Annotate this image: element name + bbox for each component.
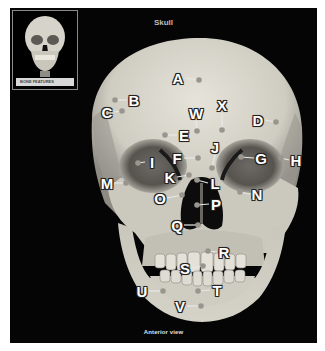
label-i[interactable]: I: [150, 155, 154, 170]
pin-s[interactable]: [200, 263, 206, 269]
pin-n[interactable]: [237, 189, 243, 195]
label-u[interactable]: U: [137, 284, 148, 299]
label-x[interactable]: X: [217, 98, 227, 113]
pin-e[interactable]: [162, 132, 168, 138]
label-h[interactable]: H: [291, 153, 302, 168]
label-n[interactable]: N: [252, 187, 263, 202]
label-v[interactable]: V: [175, 299, 185, 314]
pin-u[interactable]: [160, 288, 166, 294]
pin-r[interactable]: [205, 248, 211, 254]
label-p[interactable]: P: [211, 197, 221, 212]
pin-p[interactable]: [194, 202, 200, 208]
pin-g[interactable]: [238, 154, 244, 160]
label-k[interactable]: K: [165, 170, 176, 185]
pin-c[interactable]: [119, 108, 125, 114]
label-t[interactable]: T: [212, 283, 221, 298]
label-d[interactable]: D: [253, 113, 264, 128]
label-s[interactable]: S: [180, 261, 190, 276]
bone-features-thumbnail[interactable]: BONE FEATURES: [12, 10, 78, 90]
pin-x[interactable]: [219, 127, 225, 133]
pin-t[interactable]: [195, 288, 201, 294]
pin-i[interactable]: [135, 160, 141, 166]
label-r[interactable]: R: [219, 245, 230, 260]
label-m[interactable]: M: [101, 176, 114, 191]
label-a[interactable]: A: [173, 71, 184, 86]
label-e[interactable]: E: [179, 128, 189, 143]
pin-q[interactable]: [195, 222, 201, 228]
pin-o[interactable]: [179, 192, 185, 198]
label-w[interactable]: W: [189, 106, 203, 121]
pin-f[interactable]: [195, 155, 201, 161]
pin-w[interactable]: [194, 128, 200, 134]
pin-b[interactable]: [112, 97, 118, 103]
thumbnail-label: BONE FEATURES: [16, 78, 74, 86]
label-j[interactable]: J: [211, 140, 219, 155]
skull-thumbnail-icon: [15, 13, 75, 77]
pin-k[interactable]: [186, 172, 192, 178]
pin-l[interactable]: [194, 177, 200, 183]
label-f[interactable]: F: [172, 151, 181, 166]
pin-v[interactable]: [198, 303, 204, 309]
label-q[interactable]: Q: [171, 218, 183, 233]
label-l[interactable]: L: [210, 176, 219, 191]
label-o[interactable]: O: [154, 191, 166, 206]
pin-m[interactable]: [123, 180, 129, 186]
view-caption: Anterior view: [10, 329, 317, 335]
pin-a[interactable]: [196, 77, 202, 83]
label-g[interactable]: G: [255, 151, 267, 166]
label-c[interactable]: C: [102, 105, 113, 120]
anatomy-viewer-panel: Skull Anterior view BONE FEATURES ABCDEF…: [10, 8, 317, 343]
label-b[interactable]: B: [129, 93, 140, 108]
pin-d[interactable]: [273, 119, 279, 125]
pin-j[interactable]: [209, 165, 215, 171]
pin-h[interactable]: [278, 155, 284, 161]
